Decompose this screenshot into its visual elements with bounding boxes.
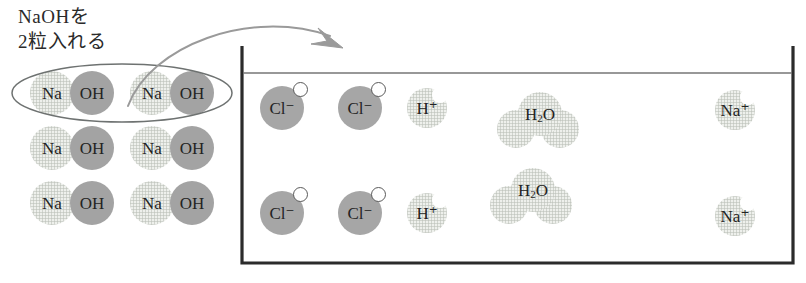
- chloride-ion: Cl⁻: [260, 86, 304, 130]
- naoh-na-circle: Na: [30, 181, 74, 225]
- naoh-oh-circle: OH: [170, 126, 214, 170]
- water-molecule: H2O: [497, 92, 583, 150]
- chloride-ion-label: Cl⁻: [269, 205, 294, 222]
- caption-text: NaOHを 2粒入れる: [18, 4, 106, 54]
- naoh-na-circle: Na: [30, 71, 74, 115]
- chloride-satellite-icon: [371, 82, 386, 97]
- beaker-outline: [242, 46, 793, 263]
- chloride-ion-label: Cl⁻: [347, 100, 372, 117]
- naoh-oh-label: OH: [80, 195, 105, 212]
- naoh-oh-label: OH: [180, 140, 205, 157]
- naoh-oh-circle: OH: [70, 71, 114, 115]
- naoh-oh-label: OH: [180, 195, 205, 212]
- water-molecule-label: H2O: [490, 181, 576, 201]
- hydrogen-ion-label: H⁺: [416, 100, 437, 117]
- chloride-ion-label: Cl⁻: [347, 205, 372, 222]
- naoh-na-circle: Na: [130, 126, 174, 170]
- naoh-oh-circle: OH: [170, 71, 214, 115]
- chloride-ion: Cl⁻: [260, 191, 304, 235]
- naoh-na-label: Na: [142, 195, 162, 212]
- naoh-na-label: Na: [42, 195, 62, 212]
- chloride-ion-label: Cl⁻: [269, 100, 294, 117]
- naoh-oh-circle: OH: [70, 181, 114, 225]
- pour-arrow-head: [311, 28, 343, 48]
- naoh-na-circle: Na: [30, 126, 74, 170]
- naoh-na-label: Na: [42, 85, 62, 102]
- naoh-oh-circle: OH: [70, 126, 114, 170]
- chloride-satellite-icon: [293, 187, 308, 202]
- water-molecule-label: H2O: [497, 105, 583, 125]
- sodium-ion: Na⁺: [715, 90, 755, 130]
- hydrogen-ion: H⁺: [407, 193, 447, 233]
- diagram-canvas: NaOHを 2粒入れる Na OH Na OH Na OH Na OH Na O…: [0, 0, 806, 283]
- chloride-ion: Cl⁻: [338, 86, 382, 130]
- chloride-satellite-icon: [371, 187, 386, 202]
- chloride-ion: Cl⁻: [338, 191, 382, 235]
- water-molecule: H2O: [490, 168, 576, 226]
- caption-line-2: 2粒入れる: [18, 31, 106, 52]
- naoh-na-label: Na: [142, 85, 162, 102]
- line-art-overlay: [0, 0, 806, 283]
- naoh-na-label: Na: [142, 140, 162, 157]
- naoh-na-label: Na: [42, 140, 62, 157]
- naoh-oh-label: OH: [80, 85, 105, 102]
- hydrogen-ion: H⁺: [407, 88, 447, 128]
- naoh-oh-label: OH: [80, 140, 105, 157]
- chloride-satellite-icon: [293, 82, 308, 97]
- hydrogen-ion-label: H⁺: [416, 205, 437, 222]
- naoh-oh-label: OH: [180, 85, 205, 102]
- sodium-ion-label: Na⁺: [721, 102, 750, 119]
- sodium-ion: Na⁺: [715, 196, 755, 236]
- naoh-na-circle: Na: [130, 71, 174, 115]
- naoh-na-circle: Na: [130, 181, 174, 225]
- sodium-ion-label: Na⁺: [721, 208, 750, 225]
- caption-line-1: NaOHを: [18, 6, 89, 27]
- naoh-oh-circle: OH: [170, 181, 214, 225]
